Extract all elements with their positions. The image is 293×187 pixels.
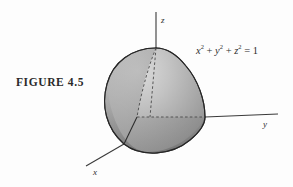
figure-caption: FIGURE 4.5 bbox=[16, 76, 84, 88]
y-axis-label: y bbox=[263, 119, 267, 129]
y-axis-line bbox=[205, 114, 278, 117]
equation-operator-2: + bbox=[223, 45, 234, 56]
x-axis-line bbox=[86, 144, 124, 166]
z-axis-label: z bbox=[161, 15, 165, 25]
equation-operator-1: + bbox=[204, 45, 215, 56]
sphere-solid bbox=[105, 48, 205, 153]
equation-label: x2 + y2 + z2 = 1 bbox=[196, 43, 258, 56]
figure-container: FIGURE 4.5 x2 + y2 + z2 = 1 z y x bbox=[0, 0, 293, 187]
equation-equals-value: = 1 bbox=[242, 45, 258, 56]
x-axis-label: x bbox=[93, 167, 97, 177]
figure-graphic bbox=[0, 0, 293, 187]
